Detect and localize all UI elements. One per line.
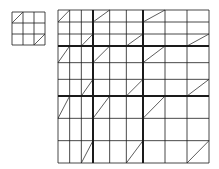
cell-diagonal (143, 10, 165, 22)
cell-diagonal (58, 96, 70, 118)
cell-diagonal (93, 96, 110, 118)
cell-diagonal (81, 79, 93, 96)
cell-diagonal (187, 34, 209, 46)
grid-diagram (0, 0, 219, 169)
cell-diagonal (12, 12, 23, 23)
cell-diagonal (58, 46, 70, 63)
cell-diagonal (93, 46, 110, 63)
cell-diagonal (81, 34, 93, 46)
cell-diagonal (81, 141, 93, 163)
cell-diagonal (126, 79, 143, 96)
large-grid (58, 10, 209, 163)
cell-diagonal (34, 34, 45, 45)
cell-diagonal (126, 141, 143, 163)
cell-diagonal (93, 10, 110, 22)
cell-diagonal (58, 10, 70, 22)
cell-diagonal (187, 141, 209, 163)
cell-diagonal (143, 96, 165, 118)
cell-diagonal (187, 79, 209, 96)
small-grid (12, 12, 45, 45)
cell-diagonal (143, 46, 165, 63)
cell-diagonal (126, 34, 143, 46)
